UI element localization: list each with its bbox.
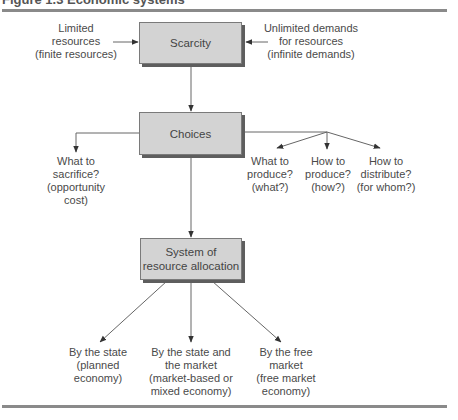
arrow-to-what xyxy=(277,132,327,148)
label-line: for resources xyxy=(264,35,358,48)
label-line: economy) xyxy=(69,372,127,385)
arrow-to-free xyxy=(212,281,281,342)
label-line: (how?) xyxy=(305,181,351,194)
label-line: sacrifice? xyxy=(47,168,105,181)
label-line: (planned xyxy=(69,359,127,372)
arrow-to-whom xyxy=(327,132,380,148)
label-line: How to xyxy=(305,155,351,168)
label-line: (finite resources) xyxy=(35,48,117,61)
mixed-system-label: By the state and the market (market-base… xyxy=(149,346,233,398)
label-line: By the state and xyxy=(149,346,233,359)
label-line: economy) xyxy=(256,385,315,398)
allocation-label-line: resource allocation xyxy=(143,259,240,273)
allocation-box: System of resource allocation xyxy=(140,238,242,280)
state-system-label: By the state (planned economy) xyxy=(69,346,127,385)
label-line: (for whom?) xyxy=(357,181,416,194)
scarcity-label: Scarcity xyxy=(170,36,211,50)
scarcity-box: Scarcity xyxy=(139,22,242,64)
what-to-produce-label: What to produce? (what?) xyxy=(247,155,293,194)
label-line: produce? xyxy=(305,168,351,181)
label-line: distribute? xyxy=(357,168,416,181)
label-line: (what?) xyxy=(247,181,293,194)
choices-label: Choices xyxy=(170,127,212,141)
label-line: (market-based or xyxy=(149,372,233,385)
free-market-label: By the free market (free market economy) xyxy=(256,346,315,398)
arrow-to-state xyxy=(100,281,167,342)
choices-box: Choices xyxy=(139,112,242,155)
how-to-produce-label: How to produce? (how?) xyxy=(305,155,351,194)
label-line: Unlimited demands xyxy=(264,22,358,35)
label-line: By the free xyxy=(256,346,315,359)
label-line: What to xyxy=(247,155,293,168)
label-line: market xyxy=(256,359,315,372)
sacrifice-label: What to sacrifice? (opportunity cost) xyxy=(47,155,105,207)
unlimited-demands-label: Unlimited demands for resources (infinit… xyxy=(264,22,358,61)
label-line: the market xyxy=(149,359,233,372)
label-line: Limited xyxy=(35,22,117,35)
bottom-rule xyxy=(2,405,447,408)
label-line: resources xyxy=(35,35,117,48)
label-line: (free market xyxy=(256,372,315,385)
arrow-choices-to-sacrifice xyxy=(76,133,139,152)
label-line: (opportunity xyxy=(47,181,105,194)
label-line: How to xyxy=(357,155,416,168)
label-line: mixed economy) xyxy=(149,385,233,398)
label-line: (infinite demands) xyxy=(264,48,358,61)
label-line: What to xyxy=(47,155,105,168)
label-line: cost) xyxy=(47,194,105,207)
label-line: By the state xyxy=(69,346,127,359)
how-to-distribute-label: How to distribute? (for whom?) xyxy=(357,155,416,194)
label-line: produce? xyxy=(247,168,293,181)
limited-resources-label: Limited resources (finite resources) xyxy=(35,22,117,61)
allocation-label-line: System of xyxy=(165,245,216,259)
